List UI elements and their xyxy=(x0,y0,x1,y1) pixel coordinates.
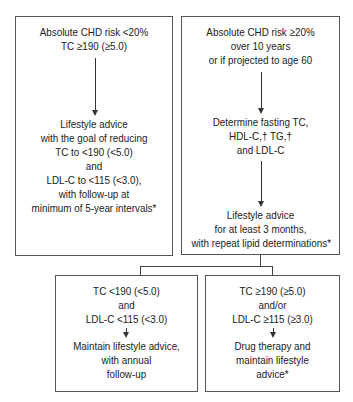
target-not-met-action-1: Drug therapy and xyxy=(214,340,331,353)
high-risk-box: Absolute CHD risk ≥20% over 10 years or … xyxy=(181,16,340,255)
low-risk-body-5: LDL-C to <115 (<3.0), xyxy=(25,174,162,187)
target-not-met-cond-1: TC ≥190 (≥5.0) xyxy=(214,285,331,298)
target-not-met-cond-2: and/or xyxy=(214,299,331,312)
target-not-met-cond-3: LDL-C ≥115 (≥3.0) xyxy=(214,313,331,326)
low-risk-body-2: with the goal of reducing xyxy=(25,132,162,145)
low-risk-body-4: and xyxy=(25,160,162,173)
arrow-down-icon xyxy=(123,332,129,338)
low-risk-box: Absolute CHD risk <20% TC ≥190 (≥5.0) Li… xyxy=(15,16,173,256)
lipid-test-2: HDL-C,† TG,† xyxy=(191,130,329,143)
arrow-down-icon xyxy=(270,332,276,338)
target-met-action-3: follow-up xyxy=(64,368,188,381)
high-risk-body-2: for at least 3 months, xyxy=(191,223,329,236)
target-met-cond-1: TC <190 (<5.0) xyxy=(64,285,188,298)
low-risk-body-7: minimum of 5-year intervals* xyxy=(25,202,162,215)
target-met-cond-2: and xyxy=(64,299,188,312)
high-risk-body-3: with repeat lipid determinations* xyxy=(191,237,329,250)
high-risk-arrow-line-2 xyxy=(261,161,262,203)
low-risk-arrow-line xyxy=(95,58,96,112)
target-met-box: TC <190 (<5.0) and LDL-C <115 (<3.0) Mai… xyxy=(55,275,198,392)
lipid-test-3: and LDL-C xyxy=(191,144,329,157)
target-not-met-box: TC ≥190 (≥5.0) and/or LDL-C ≥115 (≥3.0) … xyxy=(205,275,340,392)
low-risk-body-1: Lifestyle advice xyxy=(25,118,162,131)
target-met-cond-3: LDL-C <115 (<3.0) xyxy=(64,313,188,326)
high-risk-body-1: Lifestyle advice xyxy=(191,209,329,222)
target-not-met-action-2: maintain lifestyle xyxy=(214,354,331,367)
target-met-action-1: Maintain lifestyle advice, xyxy=(64,340,188,353)
arrow-down-icon xyxy=(92,110,98,116)
arrow-down-icon xyxy=(258,201,264,207)
high-risk-header-1: Absolute CHD risk ≥20% xyxy=(191,26,329,39)
arrow-down-icon xyxy=(258,108,264,114)
low-risk-body-3: TC to <190 (<5.0) xyxy=(25,146,162,159)
low-risk-body-6: with follow-up at xyxy=(25,188,162,201)
high-risk-arrow-line-1 xyxy=(261,72,262,110)
lipid-test-1: Determine fasting TC, xyxy=(191,116,329,129)
high-risk-header-2: over 10 years xyxy=(191,40,329,53)
target-met-action-2: with annual xyxy=(64,354,188,367)
low-risk-header-1: Absolute CHD risk <20% xyxy=(25,26,162,39)
connector-vertical-top xyxy=(260,255,261,266)
low-risk-header-2: TC ≥190 (≥5.0) xyxy=(25,40,162,53)
high-risk-header-3: or if projected to age 60 xyxy=(191,54,329,67)
target-not-met-action-3: advice* xyxy=(214,368,331,381)
connector-horizontal xyxy=(140,266,273,267)
